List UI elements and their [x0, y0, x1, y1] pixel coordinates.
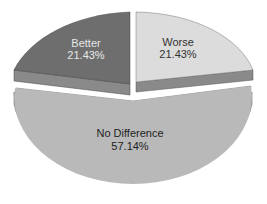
label-better-pct: 21.43%	[67, 49, 105, 61]
label-worse-name: Worse	[162, 36, 194, 48]
label-no-difference-name: No Difference	[96, 127, 163, 139]
label-no-difference-pct: 57.14%	[111, 140, 149, 152]
slice-worse-top	[136, 12, 253, 82]
label-worse-pct: 21.43%	[159, 48, 197, 60]
pie-chart: Better 21.43% Worse 21.43% No Difference…	[0, 0, 267, 204]
label-better-name: Better	[71, 37, 101, 49]
